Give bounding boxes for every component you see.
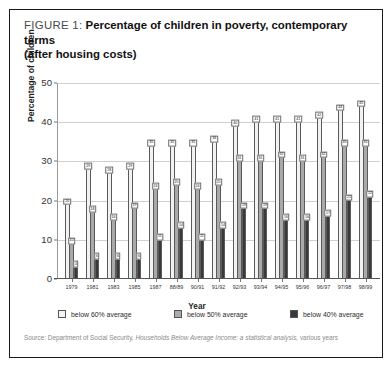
x-tick-label: 98/99 — [359, 284, 373, 290]
x-tick-label: 96/97 — [317, 284, 331, 290]
x-tick-label: 97/98 — [338, 284, 352, 290]
bar-group: 403119 — [233, 83, 254, 279]
bar-value-label: 10 — [68, 237, 76, 244]
legend-item-below-40: below 40% average — [290, 310, 364, 318]
bar-value-label: 24 — [194, 183, 202, 190]
bar-s40[interactable]: 11 — [200, 236, 205, 279]
bar-s40[interactable]: 4 — [74, 263, 79, 279]
bar-value-label: 31 — [299, 155, 307, 162]
bar-group: 352514 — [170, 83, 191, 279]
y-tick-label: 30 — [41, 156, 52, 167]
x-tick-label: 93/94 — [254, 284, 268, 290]
legend-label-50: below 50% average — [187, 311, 248, 318]
figure-title-line2: (after housing costs) — [24, 48, 137, 60]
bar-s40[interactable]: 16 — [284, 216, 289, 279]
y-tick-label: 50 — [41, 77, 52, 88]
bar-value-label: 6 — [115, 253, 121, 260]
bar-s40[interactable]: 22 — [368, 193, 373, 279]
x-tick-label: 1979 — [66, 284, 78, 290]
bar-s40[interactable]: 19 — [242, 205, 247, 279]
bar-value-label: 28 — [106, 167, 114, 174]
bar-s40[interactable]: 14 — [221, 224, 226, 279]
bar-s40[interactable]: 11 — [158, 236, 163, 279]
bar-value-label: 36 — [211, 136, 219, 143]
bar-value-label: 19 — [240, 202, 248, 209]
bar-value-label: 32 — [278, 151, 286, 158]
bar-s40[interactable]: 16 — [305, 216, 310, 279]
bar-value-label: 32 — [320, 151, 328, 158]
x-tick-mark — [135, 279, 136, 282]
x-tick-mark — [114, 279, 115, 282]
bar-value-label: 6 — [94, 253, 100, 260]
bar-s40[interactable]: 21 — [347, 197, 352, 279]
source-italic: Households Below Average Income: a stati… — [135, 334, 298, 341]
legend-item-below-50: below 50% average — [174, 310, 290, 318]
bar-group: 28166 — [107, 83, 128, 279]
bar-value-label: 40 — [232, 120, 240, 127]
x-tick-mark — [282, 279, 283, 282]
x-tick-mark — [345, 279, 346, 282]
y-axis-title: Percentage of children — [26, 29, 36, 122]
bar-value-label: 41 — [274, 116, 282, 123]
bar-value-label: 19 — [131, 202, 139, 209]
bar-value-label: 14 — [177, 222, 185, 229]
bar-value-label: 35 — [169, 139, 177, 146]
x-tick-label: 91/92 — [212, 284, 226, 290]
bar-value-label: 6 — [136, 253, 142, 260]
x-tick-label: 88/89 — [170, 284, 184, 290]
x-tick-label: 90/91 — [191, 284, 205, 290]
bar-value-label: 35 — [362, 139, 370, 146]
y-tick-label: 0 — [47, 273, 52, 284]
bar-s40[interactable]: 19 — [263, 205, 268, 279]
source-suffix: various years — [298, 334, 338, 341]
bar-value-label: 22 — [366, 190, 374, 197]
bar-value-label: 17 — [324, 210, 332, 217]
x-tick-mark — [324, 279, 325, 282]
bar-s40[interactable]: 6 — [116, 255, 121, 279]
bar-value-label: 29 — [85, 163, 93, 170]
bar-value-label: 16 — [110, 214, 118, 221]
bar-value-label: 21 — [345, 194, 353, 201]
bar-group: 423217 — [317, 83, 338, 279]
x-tick-mark — [261, 279, 262, 282]
chart-plot-area: 0102030405020104197929186198128166198329… — [57, 83, 380, 279]
x-tick-label: 95/96 — [296, 284, 310, 290]
bar-s40[interactable]: 14 — [179, 224, 184, 279]
bar-group: 362514 — [212, 83, 233, 279]
bar-value-label: 44 — [337, 104, 345, 111]
x-tick-mark — [219, 279, 220, 282]
x-tick-label: 92/93 — [233, 284, 247, 290]
bar-s40[interactable]: 6 — [137, 255, 142, 279]
source-prefix: Source: Department of Social Security, — [24, 334, 135, 341]
bar-value-label: 41 — [295, 116, 303, 123]
bar-value-label: 25 — [215, 179, 223, 186]
bar-value-label: 24 — [152, 183, 160, 190]
bar-group: 413216 — [275, 83, 296, 279]
x-axis-line — [54, 278, 380, 279]
page-title: FIGURE 1: Percentage of children in pove… — [24, 18, 372, 62]
figure-card: FIGURE 1: Percentage of children in pove… — [9, 9, 383, 358]
bar-group: 413119 — [254, 83, 275, 279]
x-tick-label: 1983 — [108, 284, 120, 290]
bar-value-label: 18 — [89, 206, 97, 213]
x-tick-label: 1987 — [150, 284, 162, 290]
bar-value-label: 16 — [303, 214, 311, 221]
bar-s40[interactable]: 17 — [326, 212, 331, 279]
x-tick-mark — [156, 279, 157, 282]
bar-value-label: 16 — [282, 214, 290, 221]
bar-value-label: 20 — [64, 198, 72, 205]
bar-value-label: 42 — [316, 112, 324, 119]
x-tick-label: 1985 — [129, 284, 141, 290]
bar-s40[interactable]: 6 — [95, 255, 100, 279]
bar-value-label: 31 — [236, 155, 244, 162]
bar-value-label: 41 — [253, 116, 261, 123]
bar-group: 20104 — [65, 83, 86, 279]
legend-swatch-icon-50 — [174, 310, 182, 318]
x-tick-label: 1981 — [87, 284, 99, 290]
bar-value-label: 35 — [190, 139, 198, 146]
legend-swatch-icon-60 — [58, 310, 66, 318]
bar-value-label: 19 — [261, 202, 269, 209]
x-tick-mark — [366, 279, 367, 282]
y-tick-label: 10 — [41, 234, 52, 245]
x-tick-mark — [240, 279, 241, 282]
